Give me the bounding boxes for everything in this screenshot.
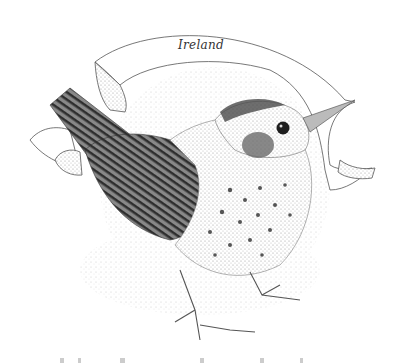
bird-illustration [0,0,396,363]
bird-eye [277,122,290,135]
banner-text: Ireland [178,38,224,52]
bottom-text-fragments [60,358,303,363]
